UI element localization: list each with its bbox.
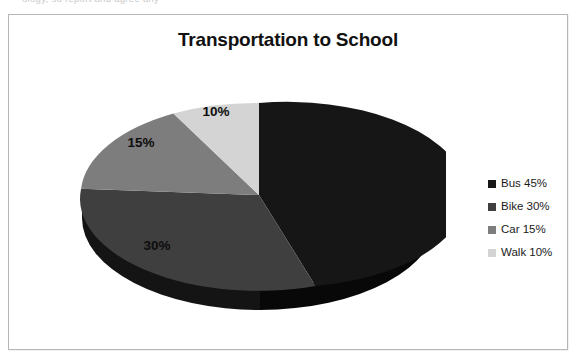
- legend-item-bus[interactable]: Bus 45%: [488, 172, 574, 195]
- slice-label-car: 15%: [127, 135, 154, 150]
- legend-label-walk: Walk 10%: [501, 247, 552, 259]
- clipped-page-text: ology, so report and agree any: [0, 0, 580, 12]
- legend-label-car: Car 15%: [501, 224, 546, 236]
- chart-title: Transportation to School: [9, 29, 567, 51]
- legend-item-bike[interactable]: Bike 30%: [488, 195, 574, 218]
- legend-item-car[interactable]: Car 15%: [488, 218, 574, 241]
- slice-label-walk: 10%: [202, 104, 229, 119]
- legend-item-walk[interactable]: Walk 10%: [488, 241, 574, 264]
- legend-swatch-car-icon: [488, 226, 496, 234]
- slice-label-bike: 30%: [143, 238, 170, 253]
- pie-chart-plot-area: 10% 15% 30%: [66, 75, 446, 315]
- legend-swatch-bus-icon: [488, 180, 496, 188]
- legend-label-bike: Bike 30%: [501, 201, 550, 213]
- legend-label-bus: Bus 45%: [501, 178, 547, 190]
- legend-swatch-walk-icon: [488, 249, 496, 257]
- chart-legend: Bus 45% Bike 30% Car 15% Walk 10%: [488, 172, 574, 264]
- chart-frame: Transportation to School 10% 15% 30%: [8, 14, 568, 350]
- legend-swatch-bike-icon: [488, 203, 496, 211]
- pie-chart-svg: 10% 15% 30%: [66, 75, 446, 315]
- clipped-page-text-label: ology, so report and agree any: [22, 0, 159, 4]
